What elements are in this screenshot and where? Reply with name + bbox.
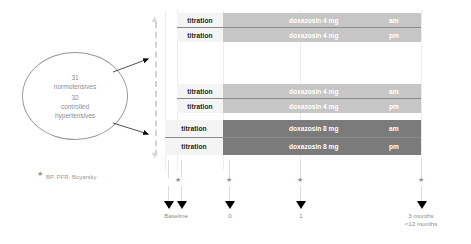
tick-stem-lower-1 — [300, 186, 301, 201]
titration-block-6: titration — [165, 138, 223, 155]
drug-period-3: am — [389, 88, 399, 95]
cohort-group-normotensives: 31 normotensives — [54, 72, 96, 92]
timeline-label-under-twelve-months: <12 months — [388, 220, 454, 228]
drug-name-6: doxazosin 8 mg — [289, 143, 338, 150]
treatment-row-5: titration doxazosin 8 mg am — [165, 120, 421, 137]
footnote-text: BP, PFR, Boyarsky — [46, 173, 97, 181]
tick-stem-baseline-a — [168, 160, 169, 178]
drug-bar-6: doxazosin 8 mg pm — [223, 138, 421, 155]
drug-period-5: am — [389, 125, 399, 132]
timepoint-triangle-0-icon — [225, 201, 235, 209]
treatment-row-6: titration doxazosin 8 mg pm — [165, 138, 421, 155]
timeline-label-3-months: 3 months — [388, 212, 454, 220]
arrow-upper-icon — [113, 59, 148, 72]
treatment-row-4: titration doxazosin 4 mg pm — [177, 99, 421, 113]
assessment-star-3-months: ★ — [418, 176, 424, 183]
randomisation-up-arrow-icon: ▲ — [150, 15, 159, 24]
drug-name-3: doxazosin 4 mg — [289, 88, 338, 95]
drug-bar-3: doxazosin 4 mg am — [223, 84, 421, 98]
timeline-label-0: 0 — [213, 212, 247, 220]
timepoint-triangle-baseline-b-icon — [177, 201, 187, 209]
cohort-count-normotensives: 31 — [54, 73, 96, 82]
cohort-count-hypertensives: 32 — [55, 93, 95, 102]
timepoint-triangle-baseline-a-icon — [164, 201, 174, 209]
drug-name-4: doxazosin 4 mg — [289, 103, 338, 110]
timepoint-triangle-3-months-icon — [417, 201, 427, 209]
treatment-row-3: titration doxazosin 4 mg am — [177, 84, 421, 98]
tick-stem-lower-3-months — [421, 186, 422, 201]
drug-bar-2: doxazosin 4 mg pm — [223, 28, 421, 42]
trial-design-diagram: 31 normotensives 32 controlled hypertens… — [0, 0, 471, 244]
assessment-star-baseline: ★ — [175, 176, 181, 183]
treatment-row-1: titration doxazosin 4 mg am — [177, 13, 421, 27]
titration-block-4: titration — [177, 99, 223, 113]
treatment-row-2: titration doxazosin 4 mg pm — [177, 28, 421, 42]
cohort-label-hypertensives-line2: hypertensives — [55, 111, 95, 120]
randomisation-down-arrow-icon: ▼ — [150, 151, 159, 160]
timeline-label-1: 1 — [284, 212, 318, 220]
tick-stem-lower-baseline-b — [181, 186, 182, 201]
drug-bar-5: doxazosin 8 mg am — [223, 120, 421, 137]
titration-block-5: titration — [165, 120, 223, 137]
cohort-label-hypertensives-line1: controlled — [55, 102, 95, 111]
tick-stem-baseline-b — [181, 160, 182, 178]
tick-stem-lower-baseline-a — [168, 186, 169, 201]
titration-block-2: titration — [177, 28, 223, 42]
drug-bar-4: doxazosin 4 mg pm — [223, 99, 421, 113]
gridline-3-months — [421, 10, 422, 170]
cohort-label-normotensives: normotensives — [54, 82, 96, 91]
arrow-lower-icon — [113, 123, 148, 134]
assessment-star-1: ★ — [297, 176, 303, 183]
timeline-label-baseline: Baseline — [150, 212, 202, 220]
drug-name-5: doxazosin 8 mg — [289, 125, 338, 132]
drug-name-2: doxazosin 4 mg — [289, 32, 338, 39]
timepoint-triangle-1-icon — [296, 201, 306, 209]
drug-period-1: am — [389, 17, 399, 24]
assessment-star-0: ★ — [226, 176, 232, 183]
cohort-arrows — [112, 58, 160, 138]
drug-period-4: pm — [389, 103, 399, 110]
drug-period-2: pm — [389, 32, 399, 39]
cohort-group-hypertensives: 32 controlled hypertensives — [55, 92, 95, 121]
drug-period-6: pm — [389, 143, 399, 150]
footnote-star-icon: ★ — [37, 170, 43, 177]
tick-stem-lower-0 — [229, 186, 230, 201]
drug-name-1: doxazosin 4 mg — [289, 17, 338, 24]
titration-block-3: titration — [177, 84, 223, 98]
randomisation-dashed-line — [155, 22, 157, 156]
drug-bar-1: doxazosin 4 mg am — [223, 13, 421, 27]
titration-block-1: titration — [177, 13, 223, 27]
